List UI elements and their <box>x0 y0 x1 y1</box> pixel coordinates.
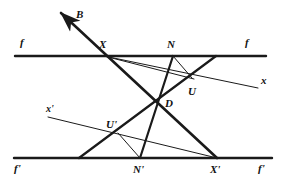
label-b: B <box>76 9 83 20</box>
label-point-x-prime: X' <box>210 164 220 175</box>
label-point-u: U <box>188 86 196 97</box>
label-point-x: X <box>99 39 106 50</box>
label-f-right: f <box>245 37 249 48</box>
segment-d-to-f <box>79 56 216 158</box>
line-x-prime <box>48 117 217 158</box>
label-x-axis-right: x <box>261 75 267 86</box>
geometry-figure: B f f X N x U D x' U' f' N' X' f' <box>0 0 290 186</box>
segment-x-u <box>104 56 194 79</box>
label-point-u-prime: U' <box>106 119 117 130</box>
label-point-d: D <box>165 98 173 109</box>
figure-canvas <box>0 0 290 186</box>
label-f-prime-right: f' <box>258 163 265 174</box>
label-point-n: N <box>167 39 175 50</box>
label-f-prime-left: f' <box>14 163 21 174</box>
label-x-prime-left: x' <box>46 104 54 114</box>
label-f-left: f <box>20 37 24 48</box>
label-point-n-prime: N' <box>133 164 144 175</box>
